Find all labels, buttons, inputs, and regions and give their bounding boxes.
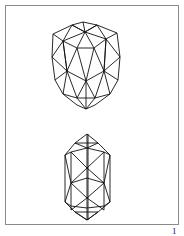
page-number: 1: [172, 226, 177, 236]
gem-diagrams: [0, 0, 184, 236]
gem-bottom-wireframe: [65, 134, 110, 220]
gem-top-wireframe: [52, 22, 120, 109]
